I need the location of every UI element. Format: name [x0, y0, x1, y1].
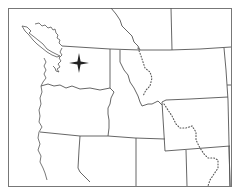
- bc-mainland-coast: [35, 23, 62, 46]
- idaho-montana-border: [120, 50, 162, 106]
- colorado-border: [229, 146, 230, 186]
- alberta-saskatchewan-border: [171, 8, 172, 50]
- vancouver-island-coast: [22, 26, 60, 57]
- california-nevada-border: [78, 136, 90, 182]
- oregon-california-border: [40, 132, 165, 139]
- utah-colorado-border: [186, 150, 187, 186]
- washington-coast: [41, 58, 46, 86]
- puget-sound-coast: [53, 48, 62, 72]
- compass-star-icon: [69, 53, 89, 73]
- bc-alberta-border: [111, 8, 140, 50]
- oregon-idaho-border: [108, 92, 114, 136]
- continental-divide: [138, 48, 218, 186]
- washington-oregon-border: [41, 84, 114, 92]
- canada-us-border: [62, 46, 231, 50]
- map: [0, 0, 244, 193]
- wyoming-border: [162, 97, 230, 151]
- map-frame: [9, 9, 232, 187]
